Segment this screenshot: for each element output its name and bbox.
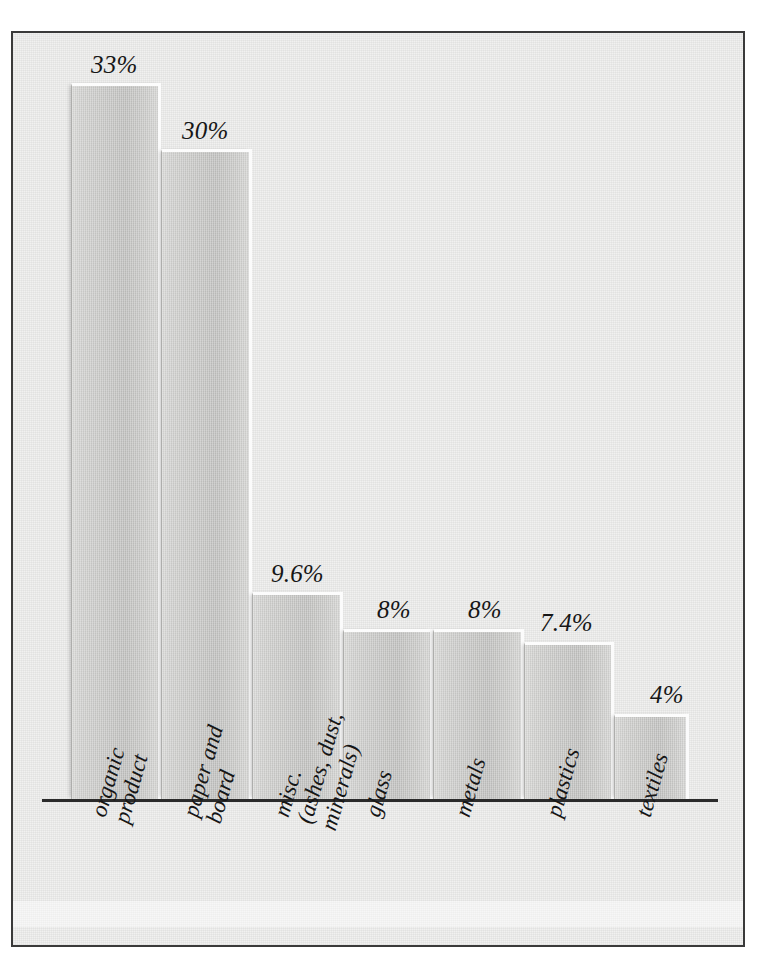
plot-area: 33%30%9.6%8%8%7.4%4% organicproductpaper… — [13, 33, 743, 945]
value-label-plastics: 7.4% — [540, 609, 593, 637]
figure-canvas: 33%30%9.6%8%8%7.4%4% organicproductpaper… — [0, 0, 761, 968]
value-label-textiles: 4% — [650, 681, 684, 709]
bar-organic-product[interactable] — [71, 83, 161, 799]
value-label-glass: 8% — [377, 596, 411, 624]
value-label-misc-ashes-dust-minerals: 9.6% — [271, 560, 324, 588]
value-label-organic-product: 33% — [91, 51, 137, 79]
value-label-paper-and-board: 30% — [182, 117, 228, 145]
value-label-metals: 8% — [468, 596, 502, 624]
chart-frame: 33%30%9.6%8%8%7.4%4% organicproductpaper… — [11, 31, 745, 947]
bar-paper-and-board[interactable] — [161, 149, 252, 799]
